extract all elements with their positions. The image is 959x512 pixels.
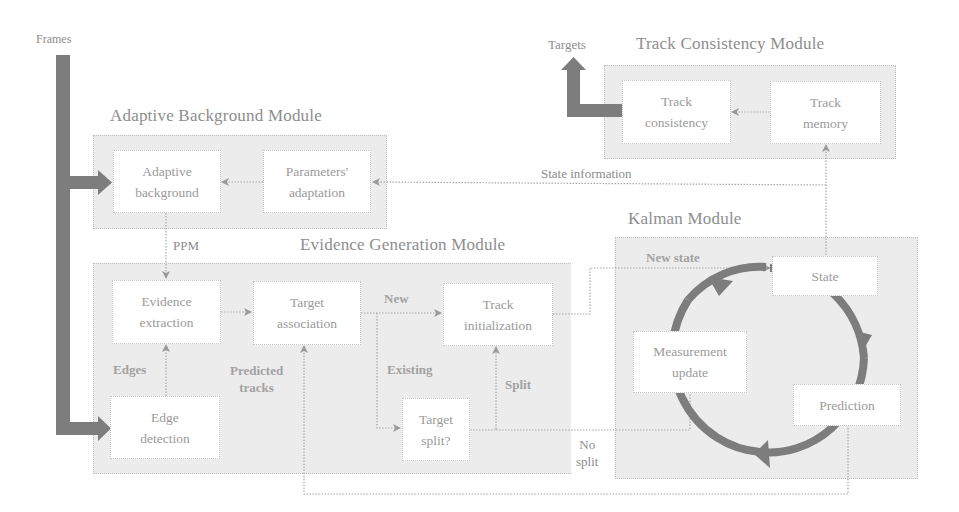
edge-label-no-split: No split [576,436,598,470]
evidence-generation-module-title: Evidence Generation Module [300,235,505,255]
node-track-consistency: Trackconsistency [622,80,731,144]
node-edge-detection: Edgedetection [110,396,220,459]
targets-label: Targets [548,36,586,53]
node-target-association: Targetassociation [253,281,361,345]
node-parameters-adaptation: Parameters'adaptation [263,150,371,213]
kalman-module-title: Kalman Module [628,209,742,229]
node-track-initialization: Trackinitialization [443,283,553,346]
edge-label-predicted-tracks: Predicted tracks [230,362,283,396]
node-measurement-update: Measurementupdate [633,331,747,393]
track-consistency-module-title: Track Consistency Module [636,34,824,54]
frames-label: Frames [36,31,71,48]
edge-label-existing: Existing [387,361,433,378]
edge-label-ppm: PPM [173,237,199,254]
edge-label-split: Split [505,376,531,393]
edge-label-new-state: New state [646,249,700,266]
node-evidence-extraction: Evidenceextraction [112,280,221,344]
node-prediction: Prediction [793,384,901,426]
node-target-split: Targetsplit? [402,398,470,461]
adaptive-background-module-title: Adaptive Background Module [110,106,322,126]
node-state: State [772,256,878,296]
node-adaptive-background: Adaptivebackground [113,150,221,213]
node-track-memory: Trackmemory [770,81,881,144]
edge-label-edges: Edges [113,361,146,378]
edge-label-state-information: State information [541,165,632,182]
edge-label-new: New [384,290,409,307]
